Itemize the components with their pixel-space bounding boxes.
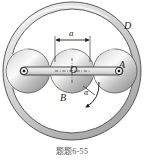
label-disc-B: B [60,93,66,103]
figure-caption: 题题6-55 [0,145,144,156]
label-disc-A: A [119,60,125,70]
pin-left [20,67,27,74]
caption-prefix: 题题 [56,147,73,156]
label-alpha: α [84,89,88,97]
label-dimension-a: a [69,29,74,38]
caption-number: 6-55 [72,147,88,156]
figure-container: D A B O a α 题题6-55 [0,0,144,161]
label-outer-ring-D: D [124,21,131,31]
label-center-O: O [70,65,77,75]
